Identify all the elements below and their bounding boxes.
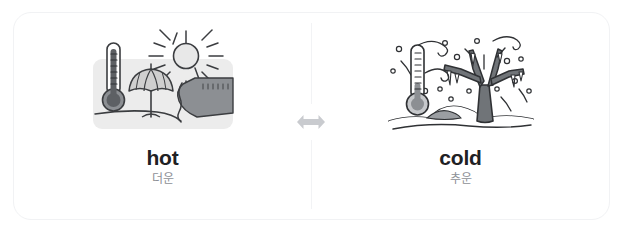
swap-horizontal-arrows-icon — [296, 113, 326, 131]
translation-label: 추운 — [450, 173, 472, 186]
term-label: hot — [146, 147, 178, 169]
term-label: cold — [439, 147, 481, 169]
hot-weather-illustration — [87, 29, 239, 137]
translation-label: 더운 — [152, 173, 174, 186]
pair-half-hot[interactable]: hot 더운 — [14, 13, 311, 219]
swap-pair-button[interactable] — [293, 104, 329, 140]
pair-half-cold[interactable]: cold 추운 — [312, 13, 609, 219]
cold-weather-illustration — [385, 29, 537, 137]
